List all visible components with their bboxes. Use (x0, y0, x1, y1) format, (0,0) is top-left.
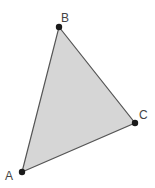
triangle-abc (22, 27, 135, 172)
vertex-point-a (19, 169, 25, 175)
vertex-label-a: A (5, 169, 13, 183)
vertex-label-b: B (61, 11, 69, 25)
triangle-diagram: ABC (0, 0, 155, 188)
vertex-point-c (132, 120, 138, 126)
vertex-label-c: C (139, 108, 148, 122)
